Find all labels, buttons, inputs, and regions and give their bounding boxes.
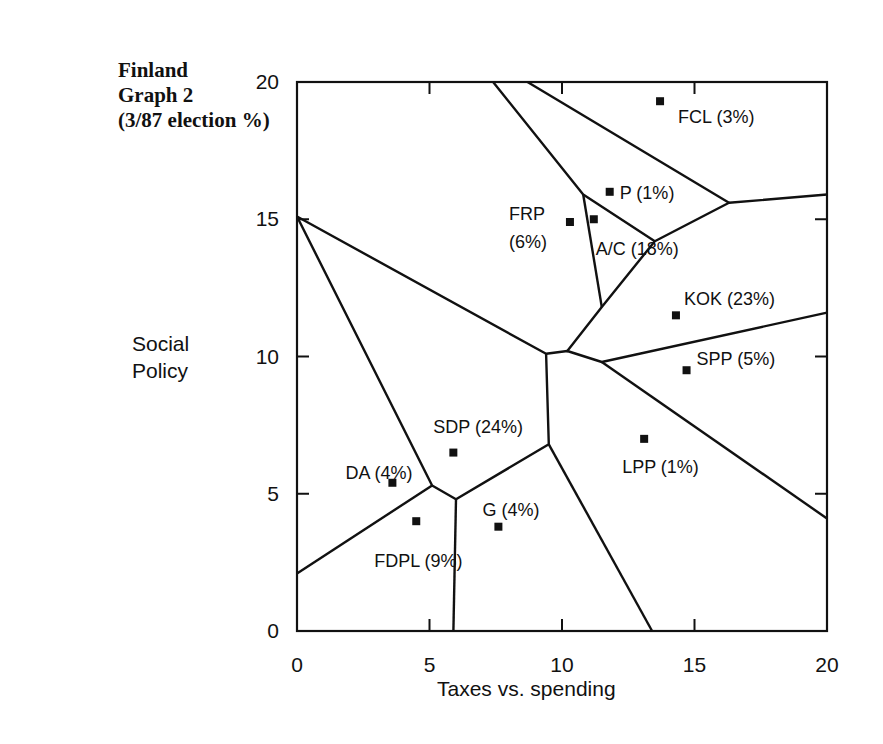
point-marker-frp <box>566 218 574 226</box>
point-marker-kok <box>672 311 680 319</box>
point-label-kok: KOK (23%) <box>684 289 775 309</box>
x-tick-label: 10 <box>550 653 573 676</box>
x-tick-label: 15 <box>683 653 706 676</box>
point-label-frp: FRP <box>509 204 545 224</box>
point-marker-p <box>606 188 614 196</box>
point-label-spp: SPP (5%) <box>697 349 776 369</box>
x-tick-label: 5 <box>424 653 436 676</box>
y-tick-label: 10 <box>256 345 279 368</box>
y-tick-label: 5 <box>267 482 279 505</box>
point-label-a-c: A/C (18%) <box>596 239 679 259</box>
point-marker-g <box>494 523 502 531</box>
x-tick-label: 0 <box>291 653 303 676</box>
point-marker-a-c <box>590 215 598 223</box>
point-label-lpp: LPP (1%) <box>622 457 699 477</box>
point-label-da: DA (4%) <box>345 463 412 483</box>
boundary-line <box>602 362 827 519</box>
point-marker-spp <box>683 366 691 374</box>
point-label-sdp: SDP (24%) <box>433 417 523 437</box>
point-label-fcl: FCL (3%) <box>678 107 754 127</box>
x-tick-label: 20 <box>815 653 838 676</box>
point-label-p: P (1%) <box>620 183 675 203</box>
y-tick-label: 15 <box>256 207 279 230</box>
point-label-g: G (4%) <box>482 500 539 520</box>
point-marker-fdpl <box>412 517 420 525</box>
point-marker-sdp <box>449 449 457 457</box>
plot-area: 0510152005101520 FCL (3%)P (1%)FRP(6%)A/… <box>0 0 883 744</box>
point-marker-fcl <box>656 97 664 105</box>
point-label-fdpl: FDPL (9%) <box>374 551 462 571</box>
y-tick-label: 0 <box>267 619 279 642</box>
point-label-frp-share: (6%) <box>509 232 547 252</box>
y-tick-label: 20 <box>256 70 279 93</box>
boundary-line <box>297 217 549 500</box>
boundary-line <box>528 82 828 203</box>
point-marker-lpp <box>640 435 648 443</box>
